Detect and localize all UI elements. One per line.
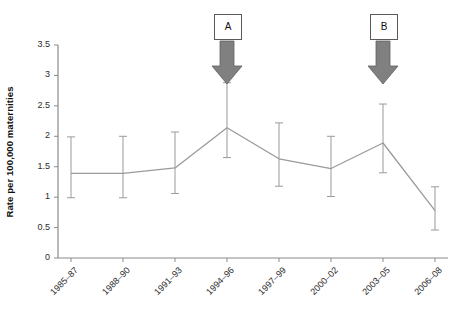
error-bar bbox=[379, 104, 387, 173]
y-tick-label: 0 bbox=[20, 253, 50, 262]
error-bar bbox=[119, 136, 127, 197]
error-bar bbox=[327, 136, 335, 196]
error-bar bbox=[223, 83, 231, 158]
error-bar bbox=[431, 187, 439, 230]
annotation-arrow-a bbox=[212, 41, 242, 84]
y-tick-label: 2 bbox=[20, 131, 50, 140]
annotation-label-box-a: A bbox=[214, 14, 242, 40]
annotation-arrow-b bbox=[368, 41, 398, 84]
y-tick-label: 3 bbox=[20, 70, 50, 79]
chart-container: Rate per 100,000 maternities 00.511.522.… bbox=[0, 0, 467, 316]
annotation-label-box-b: B bbox=[370, 14, 398, 40]
y-tick-label: 1.5 bbox=[20, 162, 50, 171]
error-bar bbox=[67, 137, 75, 198]
y-tick-label: 1 bbox=[20, 192, 50, 201]
error-bar bbox=[275, 123, 283, 186]
y-axis-title-text: Rate per 100,000 maternities bbox=[4, 52, 15, 252]
error-bar bbox=[171, 132, 179, 193]
y-tick-label: 2.5 bbox=[20, 101, 50, 110]
y-axis-title: Rate per 100,000 maternities bbox=[2, 0, 15, 52]
y-tick-label: 0.5 bbox=[20, 223, 50, 232]
y-tick-label: 3.5 bbox=[20, 40, 50, 49]
